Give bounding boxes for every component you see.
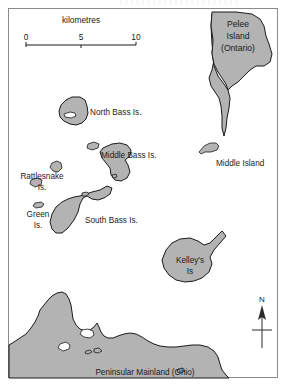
label-pelee-island-line3: (Ontario) <box>221 43 255 53</box>
scale-tick-0: 0 <box>24 32 29 42</box>
label-green-island-line2: Is. <box>34 221 43 230</box>
label-pelee-island-line2: Island <box>227 31 250 41</box>
scale-title: kilometres <box>62 15 100 25</box>
map-figure: kilometres 0 5 10 Pelee Island (Ontario)… <box>0 0 292 386</box>
scale-tick-10: 10 <box>131 32 141 42</box>
north-arrow-label: N <box>259 295 265 304</box>
label-middle-island: Middle Island <box>216 159 265 168</box>
label-green-island-line1: Green <box>27 210 50 219</box>
label-rattlesnake-island-line2: Is. <box>38 183 47 192</box>
label-rattlesnake-island-line1: Rattlesnake <box>20 172 64 181</box>
label-kelleys-island-line1: Kelley's <box>176 256 204 265</box>
green-island-shape <box>33 202 44 208</box>
label-kelleys-island-line2: Is <box>187 267 193 276</box>
scale-tick-5: 5 <box>79 32 84 42</box>
label-south-bass-island: South Bass Is. <box>85 216 138 225</box>
label-middle-bass-island: Middle Bass Is. <box>101 151 157 160</box>
map-canvas: kilometres 0 5 10 Pelee Island (Ontario)… <box>0 0 292 386</box>
tiny-islet-middle-bass <box>112 174 117 178</box>
label-peninsular-mainland: Peninsular Mainland (Ohio) <box>95 368 194 377</box>
label-north-bass-island: North Bass Is. <box>90 108 141 117</box>
label-pelee-island-line1: Pelee <box>227 19 249 29</box>
